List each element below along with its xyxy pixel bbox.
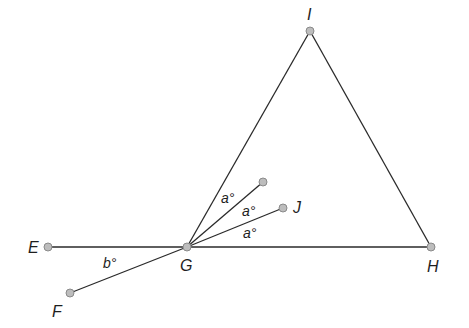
angle-label: a° bbox=[221, 190, 235, 206]
point-e bbox=[44, 243, 52, 251]
segment-gf bbox=[70, 247, 187, 293]
point-j bbox=[279, 204, 287, 212]
angle-label: a° bbox=[243, 225, 257, 241]
geometry-diagram: EFGHIJ a°a°a°b° bbox=[0, 0, 469, 328]
point-labels-group: EFGHIJ bbox=[28, 6, 439, 320]
point-g bbox=[183, 243, 191, 251]
point-label-i: I bbox=[307, 6, 312, 23]
point-label-h: H bbox=[427, 258, 439, 275]
point-label-f: F bbox=[52, 303, 63, 320]
segments-group bbox=[48, 31, 431, 293]
point-f bbox=[66, 289, 74, 297]
point-h bbox=[427, 243, 435, 251]
angle-label: a° bbox=[242, 203, 256, 219]
point-label-g: G bbox=[180, 257, 192, 274]
angle-label: b° bbox=[103, 255, 117, 271]
point-k bbox=[259, 178, 267, 186]
point-i bbox=[306, 27, 314, 35]
segment-ih bbox=[310, 31, 431, 247]
point-label-j: J bbox=[292, 199, 302, 216]
point-label-e: E bbox=[28, 239, 39, 256]
segment-gj bbox=[187, 208, 283, 247]
